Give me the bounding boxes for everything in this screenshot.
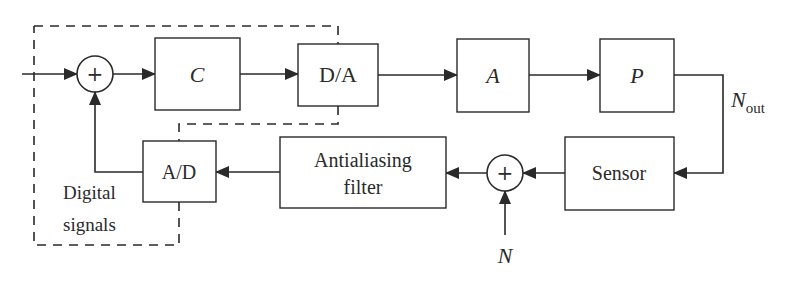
summing-junction-reference: +: [77, 56, 113, 92]
antialiasing-filter-block: Antialiasing filter: [280, 137, 446, 208]
feedback-line: [95, 92, 143, 172]
output-signal-label: Nout: [730, 87, 766, 116]
digital-region-label-line2: signals: [63, 214, 116, 235]
adc-label: A/D: [162, 161, 196, 183]
digital-region-label-line1: Digital: [63, 182, 116, 203]
sensor-label: Sensor: [592, 162, 647, 184]
amplifier-label: A: [484, 63, 500, 88]
sum-sign-noise: +: [497, 161, 514, 185]
filter-label-line2: filter: [344, 176, 383, 198]
output-loop-line: [674, 75, 723, 173]
noise-label: N: [497, 243, 514, 268]
sum-sign-reference: +: [87, 62, 104, 86]
filter-label-line1: Antialiasing: [314, 149, 412, 172]
amplifier-block: A: [457, 39, 529, 112]
dac-block: D/A: [298, 44, 378, 106]
sensor-block: Sensor: [565, 137, 674, 210]
controller-label: C: [190, 62, 205, 87]
dac-label: D/A: [319, 62, 357, 87]
adc-block: A/D: [143, 141, 216, 202]
block-diagram: + C D/A A P Nout Sensor +: [0, 0, 799, 285]
controller-block: C: [155, 38, 240, 110]
plant-label: P: [629, 63, 643, 88]
summing-junction-noise: +: [487, 155, 523, 191]
plant-block: P: [600, 39, 674, 112]
